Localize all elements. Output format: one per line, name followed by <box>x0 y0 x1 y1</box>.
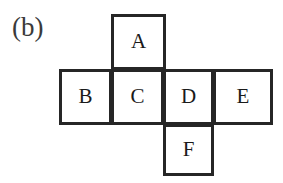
net-cell-label-d: D <box>181 86 196 107</box>
net-cell-f: F <box>163 124 214 176</box>
net-cell-b: B <box>59 69 112 125</box>
net-cell-label-e: E <box>237 86 250 107</box>
panel-label: (b) <box>12 14 43 41</box>
net-cell-label-f: F <box>183 139 195 160</box>
net-cell-a: A <box>111 14 166 70</box>
figure-canvas: (b) A B C D E F <box>0 0 283 183</box>
net-cell-label-a: A <box>131 31 146 52</box>
net-cell-c: C <box>111 69 164 125</box>
net-cell-e: E <box>213 69 273 125</box>
net-cell-label-b: B <box>78 86 92 107</box>
net-cell-d: D <box>163 69 214 125</box>
net-cell-label-c: C <box>130 86 144 107</box>
